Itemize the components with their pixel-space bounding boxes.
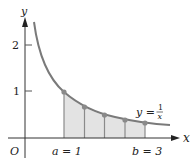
figure-canvas: y x O 2 1 a = 1 b = 3 y = 1 x bbox=[0, 0, 193, 161]
y-tick-label-2: 2 bbox=[12, 39, 19, 52]
x-axis-label: x bbox=[183, 131, 190, 145]
y-axis-arrow-icon bbox=[22, 17, 28, 27]
x-axis-arrow-icon bbox=[171, 135, 180, 141]
y-tick-label-1: 1 bbox=[13, 85, 20, 98]
svg-text:y =: y = bbox=[135, 106, 155, 119]
svg-text:x: x bbox=[158, 112, 163, 121]
b-label: b = 3 bbox=[132, 145, 162, 158]
a-label: a = 1 bbox=[52, 145, 82, 158]
svg-text:1: 1 bbox=[158, 103, 163, 112]
curve-label: y = 1 x bbox=[135, 103, 163, 121]
y-axis-label: y bbox=[20, 5, 28, 18]
origin-label: O bbox=[10, 145, 19, 158]
